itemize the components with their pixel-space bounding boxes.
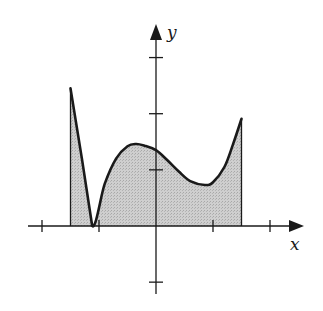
area-under-curve-chart: x y xyxy=(0,0,323,311)
x-axis-label: x xyxy=(290,234,300,254)
x-axis-arrow-icon xyxy=(289,220,304,232)
y-axis-label: y xyxy=(166,22,177,42)
y-axis-arrow-icon xyxy=(150,24,162,40)
